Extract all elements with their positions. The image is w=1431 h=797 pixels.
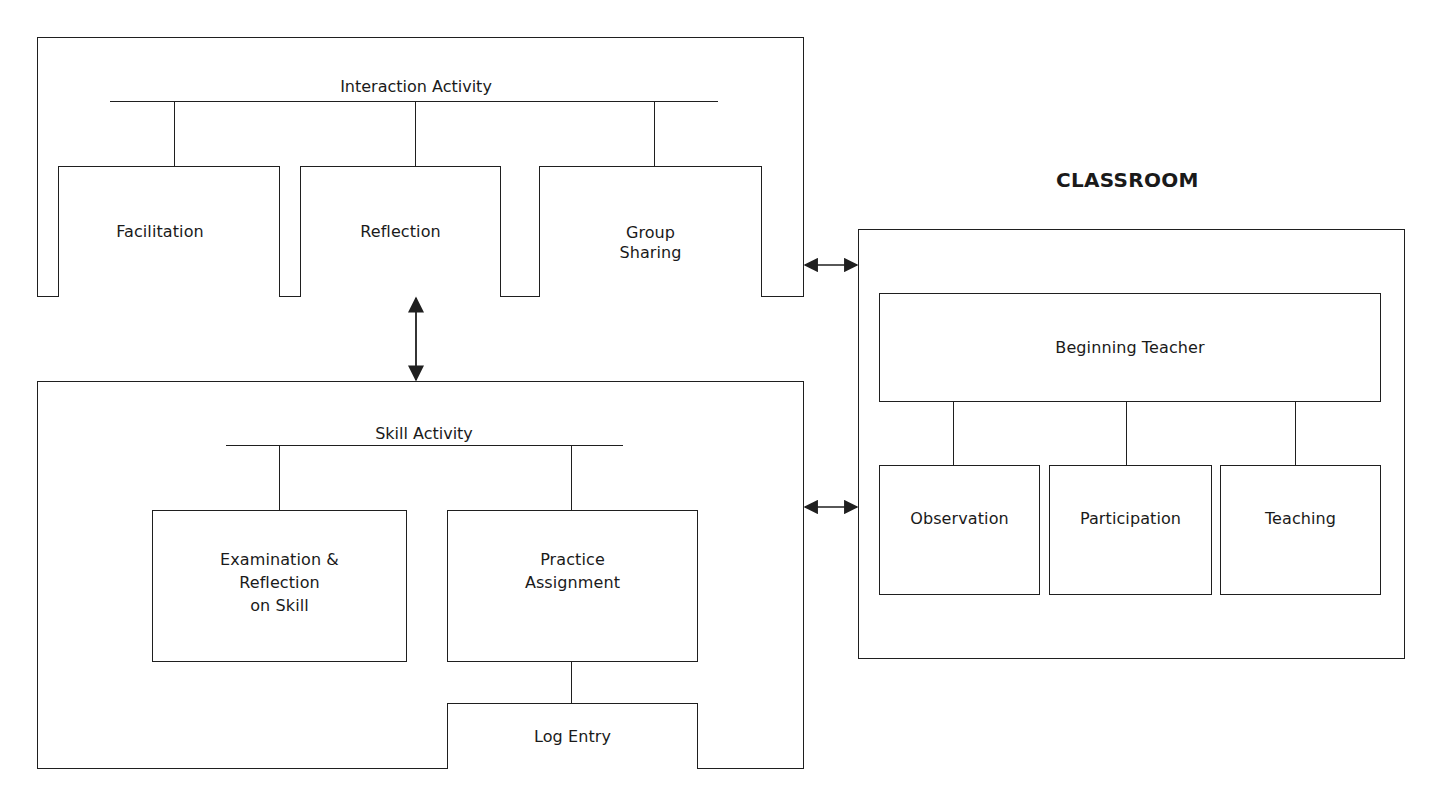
connection-arrows <box>0 0 1431 797</box>
